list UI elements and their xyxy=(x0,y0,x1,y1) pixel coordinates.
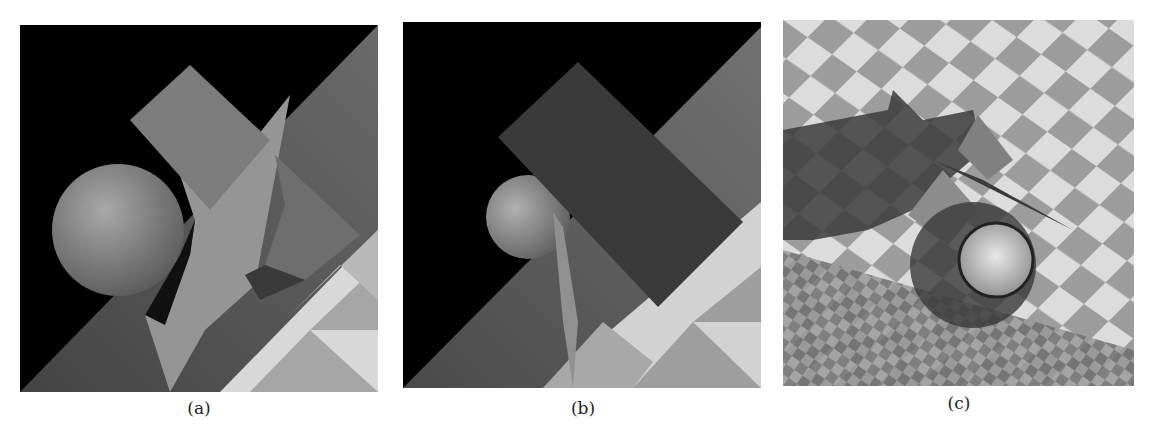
render-c-image xyxy=(783,20,1134,386)
panel-a-render xyxy=(20,25,378,392)
render-b-image xyxy=(403,22,761,388)
caption-c: (c) xyxy=(929,393,989,413)
caption-b: (b) xyxy=(553,398,613,418)
caption-a: (a) xyxy=(169,398,229,418)
render-a-image xyxy=(20,25,378,392)
panel-b-render xyxy=(403,22,761,388)
panel-c-render xyxy=(783,20,1134,386)
